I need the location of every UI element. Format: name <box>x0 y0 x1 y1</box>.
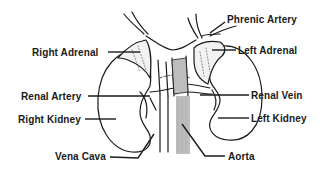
label-renal-artery: Renal Artery <box>21 91 81 102</box>
label-aorta: Aorta <box>228 151 255 162</box>
renal-vein-vessel <box>188 92 212 94</box>
leader-phrenic-artery <box>210 22 225 33</box>
label-renal-vein: Renal Vein <box>251 90 303 101</box>
label-vena-cava: Vena Cava <box>55 151 106 162</box>
aorta-upper-fill <box>172 58 188 94</box>
phrenic-branch-left <box>124 14 144 34</box>
label-right-kidney: Right Kidney <box>18 114 81 125</box>
kidney-anatomy-diagram: Phrenic Artery Right Adrenal Left Adrena… <box>0 0 325 172</box>
diagram-artwork <box>0 0 325 172</box>
label-phrenic-artery: Phrenic Artery <box>227 14 297 25</box>
right-adrenal-shape <box>118 40 151 78</box>
phrenic-branch-right-2 <box>196 14 202 38</box>
label-left-adrenal: Left Adrenal <box>238 45 297 56</box>
label-left-kidney: Left Kidney <box>251 113 307 124</box>
renal-artery-vessel <box>150 88 174 92</box>
left-adrenal-shape <box>194 41 225 84</box>
label-right-adrenal: Right Adrenal <box>32 47 99 58</box>
